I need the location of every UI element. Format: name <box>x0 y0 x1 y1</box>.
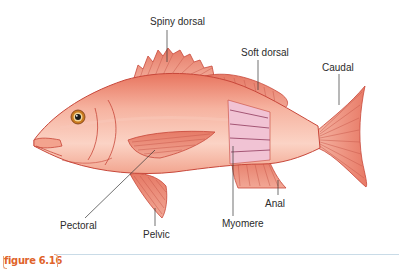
label-anal: Anal <box>265 198 285 209</box>
label-soft-dorsal: Soft dorsal <box>241 47 289 58</box>
caption-rule <box>57 254 399 255</box>
label-pectoral: Pectoral <box>60 220 97 231</box>
eye-icon <box>71 110 85 124</box>
pelvic-fin <box>130 174 167 219</box>
label-caudal: Caudal <box>322 62 354 73</box>
figure-bracket-right <box>54 254 58 267</box>
label-myomere: Myomere <box>222 218 264 229</box>
caudal-fin <box>318 86 367 187</box>
label-pelvic: Pelvic <box>143 229 170 240</box>
label-spiny-dorsal: Spiny dorsal <box>150 16 205 27</box>
